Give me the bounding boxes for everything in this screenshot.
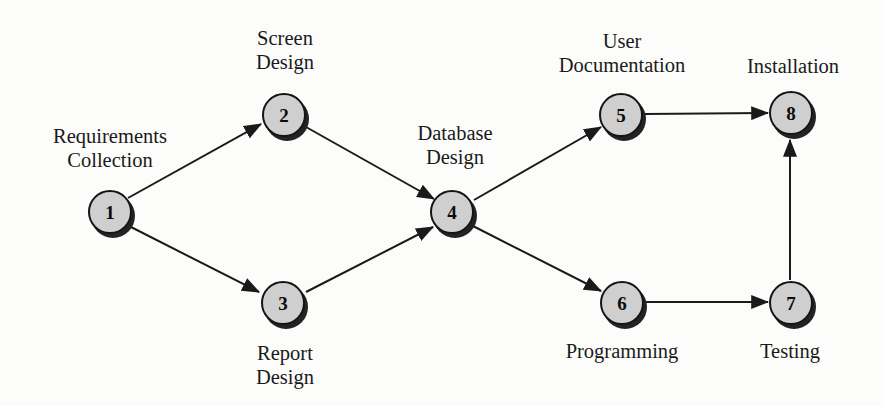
node-4-label: Database Design — [417, 121, 492, 169]
node-3-label-line-2: Design — [256, 365, 314, 389]
edge-4-to-6 — [473, 226, 601, 291]
node-7[interactable]: 7 — [769, 281, 813, 325]
node-6-number: 6 — [617, 294, 627, 313]
node-4[interactable]: 4 — [430, 190, 474, 234]
edge-5-to-8 — [645, 113, 768, 114]
node-6-label-line-1: Programming — [566, 339, 679, 363]
node-8-label: Installation — [747, 54, 839, 78]
node-2-label: Screen Design — [256, 26, 314, 74]
node-5[interactable]: 5 — [599, 93, 643, 137]
edge-4-to-5 — [474, 127, 601, 200]
node-3-label: Report Design — [256, 341, 314, 389]
node-5-label-line-1: User — [559, 29, 685, 53]
node-7-label: Testing — [760, 339, 820, 363]
node-1-label-line-1: Requirements — [53, 124, 167, 148]
node-2-label-line-1: Screen — [256, 26, 314, 50]
node-7-number: 7 — [786, 294, 796, 313]
node-7-label-line-1: Testing — [760, 339, 820, 363]
node-5-number: 5 — [616, 106, 626, 125]
edge-3-to-4 — [306, 227, 433, 292]
node-1-number: 1 — [105, 203, 115, 222]
node-8-label-line-1: Installation — [747, 54, 839, 78]
edge-1-to-3 — [129, 226, 259, 292]
network-diagram-canvas: 1 2 3 4 5 6 7 8 Requirements Collection … — [0, 0, 884, 406]
node-5-label-line-2: Documentation — [559, 53, 685, 77]
node-1[interactable]: 1 — [88, 190, 132, 234]
node-6-label: Programming — [566, 339, 679, 363]
node-3[interactable]: 3 — [261, 281, 305, 325]
node-4-label-line-2: Design — [417, 145, 492, 169]
node-2-label-line-2: Design — [256, 50, 314, 74]
node-2[interactable]: 2 — [262, 93, 306, 137]
node-8[interactable]: 8 — [769, 91, 813, 135]
node-5-label: User Documentation — [559, 29, 685, 77]
node-4-label-line-1: Database — [417, 121, 492, 145]
edge-2-to-4 — [306, 127, 434, 199]
node-3-label-line-1: Report — [256, 341, 314, 365]
node-1-label-line-2: Collection — [53, 148, 167, 172]
node-8-number: 8 — [786, 104, 796, 123]
node-1-label: Requirements Collection — [53, 124, 167, 172]
node-2-number: 2 — [279, 106, 289, 125]
node-4-number: 4 — [447, 203, 457, 222]
node-3-number: 3 — [278, 294, 288, 313]
node-6[interactable]: 6 — [600, 281, 644, 325]
